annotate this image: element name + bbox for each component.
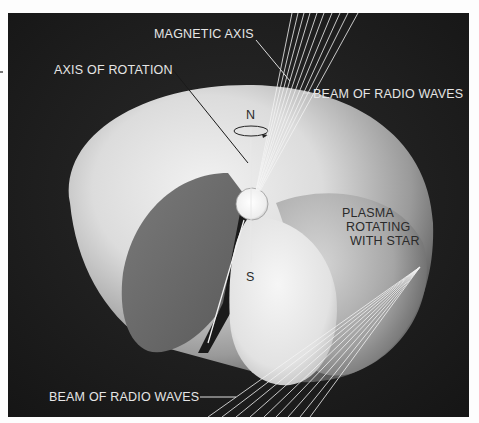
label-plasma-line2: ROTATING	[346, 221, 410, 234]
label-north-pole: N	[246, 109, 255, 122]
stray-margin-mark	[0, 71, 3, 73]
label-beam-of-radio-waves-top: BEAM OF RADIO WAVES	[313, 88, 463, 101]
label-magnetic-axis: MAGNETIC AXIS	[154, 28, 254, 41]
pulsar-diagram-panel: MAGNETIC AXIS AXIS OF ROTATION BEAM OF R…	[8, 13, 469, 417]
label-plasma-line3: WITH STAR	[350, 235, 420, 248]
neutron-star	[236, 188, 268, 220]
label-plasma-line1: PLASMA	[342, 207, 394, 220]
label-south-pole: S	[246, 271, 255, 284]
label-beam-of-radio-waves-bottom: BEAM OF RADIO WAVES	[49, 391, 199, 404]
label-axis-of-rotation: AXIS OF ROTATION	[54, 64, 173, 77]
